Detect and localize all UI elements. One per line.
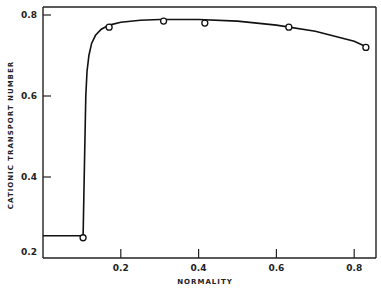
fitted-curve-line — [43, 20, 368, 236]
y-axis-ticks: 0.20.40.60.8 — [21, 10, 51, 257]
x-tick-label: 0.2 — [113, 263, 129, 273]
x-tick-label: 0.8 — [346, 263, 362, 273]
y-tick-label: 0.4 — [21, 172, 37, 182]
x-axis-title: NORMALITY — [177, 278, 233, 286]
plot-frame — [43, 7, 376, 258]
data-point-marker — [80, 235, 86, 241]
y-tick-label: 0.6 — [21, 91, 37, 101]
x-tick-label: 0.4 — [191, 263, 207, 273]
y-axis-title: CATIONIC TRANSPORT NUMBER — [7, 61, 15, 209]
transport-number-chart: 0.20.40.60.8 0.20.40.60.8 NORMALITY CATI… — [0, 0, 381, 290]
y-tick-label: 0.8 — [21, 10, 37, 20]
x-axis-ticks: 0.20.40.60.8 — [113, 249, 362, 273]
data-point-markers — [80, 18, 369, 241]
data-point-marker — [286, 24, 292, 30]
data-point-marker — [202, 20, 208, 26]
data-point-marker — [106, 24, 112, 30]
y-tick-label: 0.2 — [21, 247, 37, 257]
x-tick-label: 0.6 — [268, 263, 284, 273]
data-point-marker — [363, 44, 369, 50]
data-point-marker — [161, 18, 167, 24]
